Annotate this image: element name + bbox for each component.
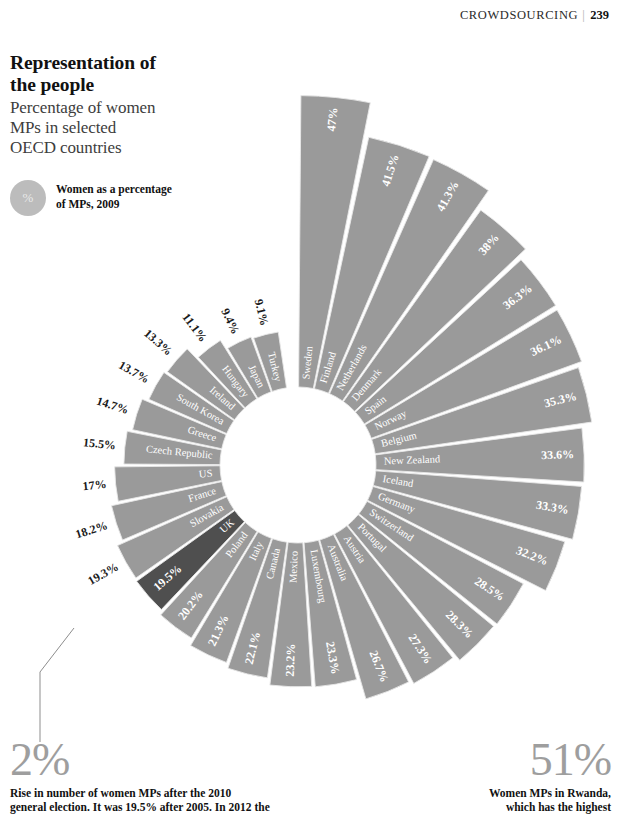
stat-uk-line2: general election. It was 19.5% after 200… xyxy=(10,801,270,813)
page-subtitle-line3: OECD countries xyxy=(10,138,121,157)
title-block: Representation of the people Percentage … xyxy=(10,52,240,158)
page-subtitle-line2: MPs in selected xyxy=(10,118,116,137)
stat-uk-value: 2% xyxy=(10,738,310,782)
value-label-france: 18.2% xyxy=(74,518,110,541)
value-label-japan: 9.4% xyxy=(218,306,242,336)
stat-rwanda-line2: which has the highest xyxy=(506,801,611,813)
value-label-south-korea: 13.7% xyxy=(116,358,152,386)
value-label-slovakia: 19.3% xyxy=(85,559,121,587)
value-label-new-zealand: 33.6% xyxy=(541,447,574,462)
page-subtitle: Percentage of women MPs in selected OECD… xyxy=(10,98,240,158)
country-label-us: US xyxy=(198,467,213,479)
country-label-mexico: Mexico xyxy=(288,551,300,583)
page-header: CROWDSOURCING|239 xyxy=(460,8,609,23)
page-title: Representation of the people xyxy=(10,52,240,96)
value-label-ireland: 13.3% xyxy=(141,326,175,358)
stat-uk-description: Rise in number of women MPs after the 20… xyxy=(10,786,310,815)
page-title-line1: Representation of xyxy=(10,52,156,73)
value-label-us: 17% xyxy=(82,477,107,493)
legend-label-line1: Women as a percentage xyxy=(56,183,172,195)
value-label-turkey: 9.1% xyxy=(252,298,272,328)
legend: % Women as a percentage of MPs, 2009 xyxy=(10,180,172,216)
value-label-sweden: 47% xyxy=(324,107,340,132)
stat-rwanda-value: 51% xyxy=(311,738,611,782)
page-number: 239 xyxy=(590,8,609,22)
page-title-line2: the people xyxy=(10,74,94,95)
value-label-czech-republic: 15.5% xyxy=(82,435,116,452)
stat-uk-line1: Rise in number of women MPs after the 20… xyxy=(10,787,231,799)
stat-uk: 2% Rise in number of women MPs after the… xyxy=(10,738,310,815)
country-label-new-zealand: New Zealand xyxy=(384,453,441,466)
value-label-mexico: 23.2% xyxy=(283,643,298,676)
stat-rwanda-description: Women MPs in Rwanda, which has the highe… xyxy=(401,786,611,815)
legend-label-line2: of MPs, 2009 xyxy=(56,198,120,210)
header-section: CROWDSOURCING xyxy=(460,8,578,22)
value-label-hungary: 11.1% xyxy=(179,310,210,344)
stat-rwanda-line1: Women MPs in Rwanda, xyxy=(489,787,611,799)
stat-rwanda: 51% Women MPs in Rwanda, which has the h… xyxy=(311,738,611,815)
percent-icon: % xyxy=(10,180,46,216)
page-subtitle-line1: Percentage of women xyxy=(10,98,155,117)
legend-label: Women as a percentage of MPs, 2009 xyxy=(56,180,172,212)
header-divider: | xyxy=(582,8,585,23)
value-label-greece: 14.7% xyxy=(95,394,131,417)
